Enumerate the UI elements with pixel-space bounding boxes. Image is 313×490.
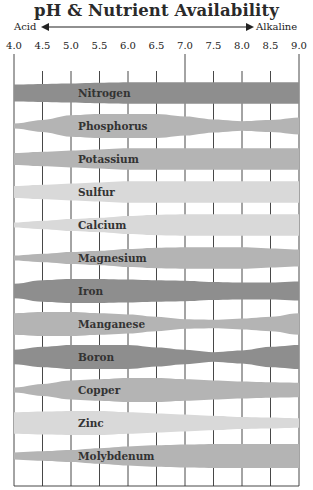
nutrient-label: Manganese: [78, 318, 145, 330]
chart-plot: [0, 0, 313, 490]
nutrient-label: Sulfur: [78, 186, 115, 198]
nutrient-label: Boron: [78, 351, 114, 363]
nutrient-band: [14, 148, 299, 170]
nutrient-band: [14, 444, 299, 468]
nutrient-band: [14, 214, 299, 236]
x-tick-label: 4.0: [6, 40, 22, 51]
nutrient-band: [14, 411, 299, 435]
nutrient-label: Potassium: [78, 153, 139, 165]
double-arrow-icon: [41, 23, 254, 31]
nutrient-band: [14, 279, 299, 303]
nutrient-band: [14, 378, 299, 402]
x-tick-label: 7.5: [206, 40, 222, 51]
x-tick-label: 6.5: [149, 40, 165, 51]
nutrient-band: [14, 181, 299, 203]
nutrient-band: [14, 247, 299, 269]
nutrient-label: Calcium: [78, 219, 126, 231]
nutrient-label: Nitrogen: [78, 87, 131, 99]
nutrient-label: Zinc: [78, 417, 104, 429]
x-tick-label: 7.0: [177, 40, 193, 51]
nutrient-label: Copper: [78, 384, 120, 396]
nutrient-label: Phosphorus: [78, 120, 148, 132]
nutrient-label: Iron: [78, 285, 103, 297]
nutrient-label: Magnesium: [78, 252, 147, 264]
x-tick-label: 5.5: [92, 40, 108, 51]
x-tick-label: 9.0: [291, 40, 307, 51]
nutrient-band: [14, 345, 299, 369]
x-tick-label: 8.0: [234, 40, 250, 51]
x-tick-label: 8.5: [263, 40, 279, 51]
x-tick-label: 4.5: [35, 40, 51, 51]
nutrient-band: [14, 82, 299, 104]
nutrient-band: [14, 114, 299, 138]
x-tick-label: 6.0: [120, 40, 136, 51]
x-tick-label: 5.0: [63, 40, 79, 51]
nutrient-label: Molybdenum: [78, 450, 154, 462]
